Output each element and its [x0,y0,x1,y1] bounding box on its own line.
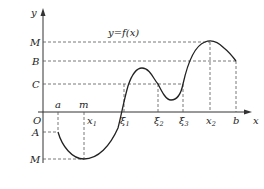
label-M-min: M [29,154,41,165]
x-axis-label: x [253,115,259,126]
label-x1: x1 [87,115,97,128]
label-B: B [31,56,39,67]
label-x2: x2 [206,115,216,128]
label-xi3: ξ3 [179,115,189,128]
label-C: C [32,79,40,90]
label-xi1: ξ1 [120,115,130,128]
label-xi2: ξ2 [154,115,164,128]
y-axis-arrow-icon [41,8,46,16]
label-a: a [55,99,61,110]
function-graph: y x O y=f(x) M B C A M a m x1 ξ1 ξ2 ξ3 x… [0,0,264,189]
label-b: b [233,115,239,126]
origin-label: O [33,115,41,126]
y-axis-label: y [30,7,37,18]
label-M-max: M [29,37,41,48]
label-m: m [79,99,88,110]
label-A: A [31,127,39,138]
x-axis-arrow-icon [244,110,252,115]
function-title: y=f(x) [107,27,139,38]
